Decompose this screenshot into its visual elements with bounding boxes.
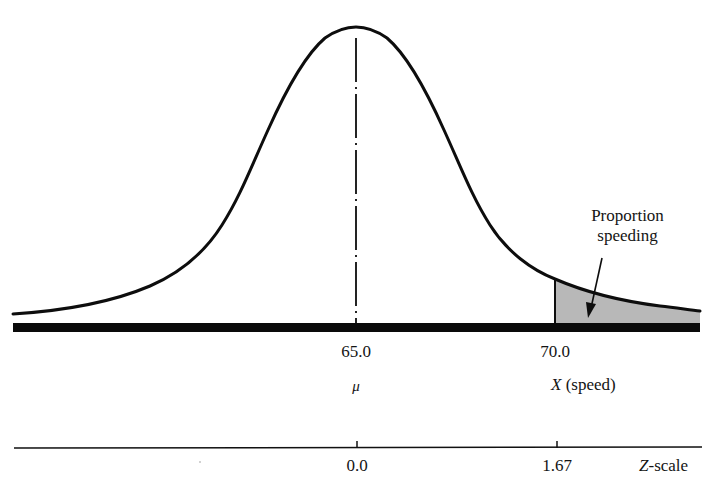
z-tick-label-0: 0.0	[346, 457, 367, 474]
z-scale-label: Z-scale	[639, 457, 688, 474]
x-variable-symbol: X	[551, 375, 561, 394]
mean-symbol: μ	[352, 379, 360, 394]
z-axis-line	[14, 447, 702, 448]
proportion-speeding-annotation: Proportion speeding	[575, 206, 680, 246]
annotation-line-2: speeding	[575, 226, 680, 246]
z-scale-suffix: -scale	[648, 456, 688, 475]
x-variable-description: (speed)	[566, 375, 616, 394]
x-axis-baseline	[13, 323, 700, 332]
x-tick-label-cutoff: 70.0	[540, 343, 570, 360]
annotation-line-1: Proportion	[575, 206, 680, 226]
x-variable-label: X (speed)	[551, 376, 616, 393]
x-tick-label-mean: 65.0	[341, 343, 371, 360]
z-tick-label-1: 1.67	[542, 457, 572, 474]
scan-speck	[199, 461, 201, 463]
